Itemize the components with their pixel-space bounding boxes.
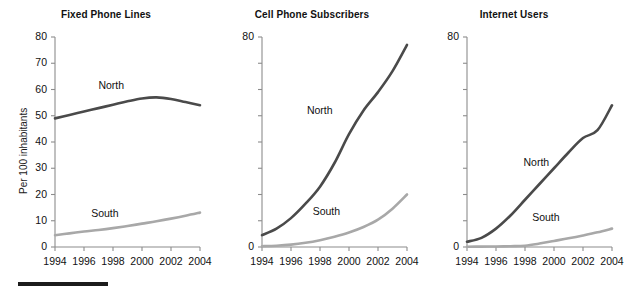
series-label-north: North (98, 79, 124, 91)
series-label-north: North (307, 104, 333, 116)
y-tick-label: 50 (17, 109, 47, 121)
y-tick-label: 40 (17, 135, 47, 147)
series-line-south (262, 195, 407, 247)
y-tick-label: 0 (17, 240, 47, 252)
series-label-north: North (524, 156, 550, 168)
y-tick-label: 0 (429, 240, 459, 252)
y-tick-label: 80 (429, 30, 459, 42)
y-tick-label: 80 (17, 30, 47, 42)
series-label-south: South (532, 211, 559, 223)
chart-panel-3: Internet Users08019941996199820002002200… (412, 0, 616, 294)
y-tick-label: 30 (17, 161, 47, 173)
series-line-south (467, 229, 612, 247)
series-line-north (55, 97, 200, 118)
y-tick-label: 10 (17, 214, 47, 226)
series-label-south: South (313, 205, 340, 217)
y-tick-label: 80 (224, 30, 254, 42)
series-line-south (55, 213, 200, 236)
y-tick-label: 20 (17, 188, 47, 200)
series-label-south: South (91, 207, 118, 219)
chart-panel-1: Fixed Phone LinesPer 100 inhabitants0102… (0, 0, 212, 294)
chart-panel-2: Cell Phone Subscribers080199419961998200… (212, 0, 412, 294)
x-tick-label: 2004 (595, 255, 628, 267)
y-tick-label: 60 (17, 83, 47, 95)
footer-rule (18, 282, 108, 286)
y-tick-label: 70 (17, 56, 47, 68)
y-tick-label: 0 (224, 240, 254, 252)
